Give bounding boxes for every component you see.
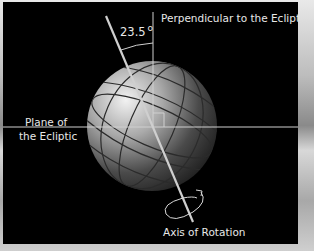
axis-of-rotation-label: Axis of Rotation [163,226,246,239]
rotation-arrow-icon [165,190,203,219]
diagram-panel: 23.5o Perpendicular to the Ecliptic Plan… [3,2,298,244]
plane-label-line2: the Ecliptic [19,130,77,143]
perpendicular-label: Perpendicular to the Ecliptic [161,12,298,25]
degree-symbol: o [148,23,154,33]
angle-value: 23.5 [120,25,146,39]
tilt-angle-label: 23.5o [120,22,153,39]
plane-label-line1: Plane of [25,116,67,129]
tilt-angle-arc [121,43,153,50]
